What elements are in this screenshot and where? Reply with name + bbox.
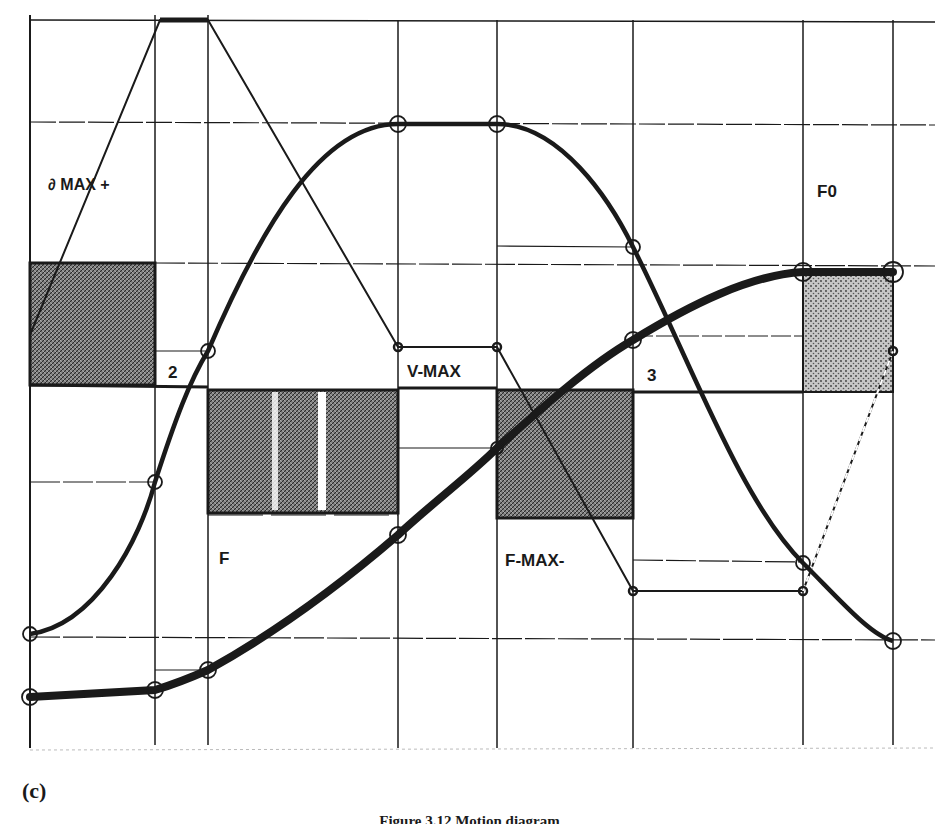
- f0-region: [803, 272, 893, 392]
- f-region-gap-2: [318, 392, 326, 510]
- v-max-label: V-MAX: [407, 362, 462, 381]
- acceleration-curve: [30, 20, 893, 591]
- accel-plus-region: [30, 263, 155, 385]
- panel-label: (c): [22, 778, 46, 804]
- f-max-minus-label: F-MAX-: [505, 551, 564, 570]
- velocity-curve: [30, 124, 893, 641]
- segment-2-label: 2: [168, 363, 177, 382]
- figure-caption: Figure 3.12 Motion diagram: [0, 813, 939, 824]
- f0-label: F0: [817, 182, 837, 201]
- segment-3-label: 3: [647, 366, 656, 385]
- f-region-gap-1: [272, 392, 278, 510]
- markers: [22, 116, 903, 705]
- accel-max-plus-label: ∂ MAX +: [48, 176, 110, 193]
- motion-diagram: ∂ MAX + 2 V-MAX 3 F0 F F-MAX-: [0, 0, 939, 824]
- f-max-minus-region: [497, 390, 633, 518]
- f-label: F: [219, 549, 229, 568]
- f-region-left: [208, 390, 398, 513]
